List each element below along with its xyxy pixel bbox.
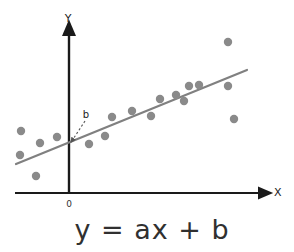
scatter-point bbox=[230, 115, 238, 123]
scatter-point bbox=[147, 112, 155, 120]
scatter-point bbox=[224, 38, 232, 46]
scatter-plot-figure: Y X 0 b y = ax + b bbox=[0, 0, 294, 252]
y-axis-label: Y bbox=[64, 12, 72, 25]
scatter-point bbox=[185, 82, 193, 90]
scatter-point bbox=[101, 132, 109, 140]
scatter-point bbox=[53, 133, 61, 141]
scatter-point bbox=[224, 82, 232, 90]
scatter-point bbox=[108, 113, 116, 121]
regression-line bbox=[16, 70, 247, 164]
scatter-point bbox=[36, 139, 44, 147]
scatter-point bbox=[180, 97, 188, 105]
scatter-points-group bbox=[16, 38, 238, 180]
scatter-point bbox=[195, 81, 203, 89]
scatter-point bbox=[85, 140, 93, 148]
equation-label: y = ax + b bbox=[74, 214, 229, 245]
scatter-point bbox=[16, 151, 24, 159]
origin-label: 0 bbox=[66, 199, 72, 209]
scatter-point bbox=[128, 107, 136, 115]
scatter-point bbox=[172, 91, 180, 99]
scatter-point bbox=[156, 95, 164, 103]
scatter-point bbox=[17, 127, 25, 135]
x-axis-label: X bbox=[274, 186, 282, 199]
plot-canvas: Y X 0 b y = ax + b bbox=[0, 0, 294, 252]
scatter-point bbox=[32, 172, 40, 180]
intercept-label: b bbox=[83, 109, 89, 120]
